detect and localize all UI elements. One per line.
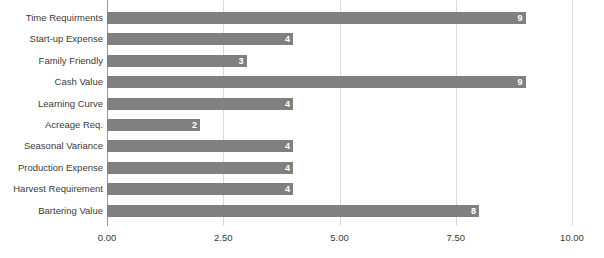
- bar-row: 8: [107, 205, 572, 217]
- bar-value-label: 9: [107, 12, 526, 24]
- bar-value-label: 2: [107, 119, 200, 131]
- category-label: Start-up Expense: [0, 33, 103, 45]
- bar-value-label: 4: [107, 162, 293, 174]
- category-axis-labels: Time RequirmentsStart-up ExpenseFamily F…: [0, 0, 103, 226]
- bar-value-label: 4: [107, 183, 293, 195]
- bar-value-label: 4: [107, 33, 293, 45]
- bar-row: 2: [107, 119, 572, 131]
- category-label: Bartering Value: [0, 205, 103, 217]
- x-tick-label: 2.50: [214, 231, 233, 245]
- bar-row: 4: [107, 140, 572, 152]
- category-label: Cash Value: [0, 76, 103, 88]
- category-label: Family Friendly: [0, 55, 103, 67]
- category-label: Seasonal Variance: [0, 140, 103, 152]
- category-label: Harvest Requirement: [0, 183, 103, 195]
- x-tick-label: 5.00: [330, 231, 349, 245]
- bar-row: 4: [107, 98, 572, 110]
- bar-value-label: 8: [107, 205, 479, 217]
- x-tick-label: 10.00: [560, 231, 584, 245]
- x-tick-label: 0.00: [98, 231, 117, 245]
- bar-row: 9: [107, 12, 572, 24]
- category-label: Production Expense: [0, 162, 103, 174]
- x-tick-label: 7.50: [447, 231, 466, 245]
- category-label: Acreage Req.: [0, 119, 103, 131]
- bar-value-label: 4: [107, 98, 293, 110]
- gridline: [572, 0, 573, 226]
- category-label: Time Requirments: [0, 12, 103, 24]
- x-axis-tick-labels: 0.002.505.007.5010.00: [0, 231, 604, 247]
- bar-value-label: 4: [107, 140, 293, 152]
- bar-row: 9: [107, 76, 572, 88]
- bar-row: 4: [107, 162, 572, 174]
- horizontal-bar-chart: Time RequirmentsStart-up ExpenseFamily F…: [0, 0, 604, 258]
- bar-row: 3: [107, 55, 572, 67]
- bar-row: 4: [107, 183, 572, 195]
- category-label: Learning Curve: [0, 98, 103, 110]
- bar-row: 4: [107, 33, 572, 45]
- plot-area: 9439424448: [107, 0, 572, 226]
- bar-value-label: 9: [107, 76, 526, 88]
- bar-value-label: 3: [107, 55, 247, 67]
